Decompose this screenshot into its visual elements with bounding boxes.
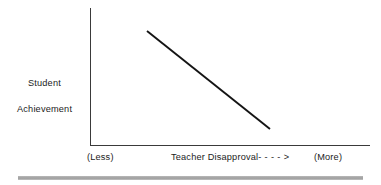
x-axis-right-anchor-label: (More): [314, 151, 342, 164]
x-axis-arrow-icon: - - - - >: [258, 152, 289, 162]
y-axis-label: Student Achievement: [17, 64, 72, 142]
trend-line: [147, 31, 270, 129]
y-axis-label-line-1: Student: [28, 78, 61, 88]
y-axis-label-line-2: Achievement: [17, 103, 72, 116]
bottom-divider-rule: [18, 176, 363, 180]
x-axis-title-text: Teacher Disapproval: [171, 152, 258, 162]
figure-container: Student Achievement (Less) Teacher Disap…: [0, 0, 381, 185]
x-axis-title: Teacher Disapproval- - - - >: [171, 151, 289, 164]
x-axis-left-anchor-label: (Less): [87, 151, 114, 164]
